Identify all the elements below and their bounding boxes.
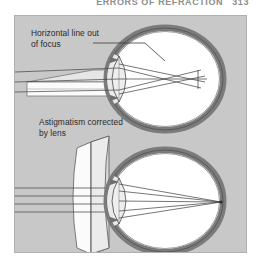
corrective-cylinder-lens	[73, 136, 109, 253]
page-header-title: ERRORS OF REFRACTION	[96, 0, 223, 7]
label-astigmatism-corrected-by-lens: Astigmatism corrected by lens	[39, 117, 123, 138]
figure-panel: Horizontal line out of focus Astigmatism…	[14, 15, 247, 253]
eye-diagram-corrected	[15, 136, 223, 253]
focal-point-bottom	[219, 200, 222, 203]
page-number: 313	[232, 0, 249, 7]
label-horizontal-line-out-of-focus: Horizontal line out of focus	[31, 28, 99, 49]
page-header: ERRORS OF REFRACTION313	[0, 0, 259, 9]
